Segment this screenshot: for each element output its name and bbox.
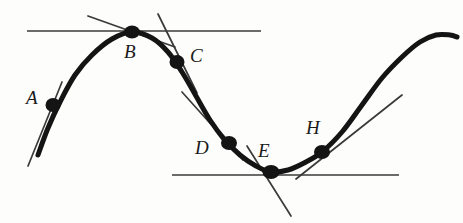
point-label-e: E	[258, 141, 270, 160]
point-dot-d	[221, 136, 237, 150]
tangent-lines-group	[28, 14, 402, 216]
point-label-a: A	[26, 88, 38, 107]
marked-points-group	[46, 26, 331, 180]
point-dot-c	[170, 55, 185, 69]
point-dot-e	[263, 165, 280, 179]
point-label-b: B	[124, 42, 136, 61]
point-label-c: C	[190, 46, 203, 65]
point-dot-b	[124, 26, 140, 39]
point-dot-h	[314, 145, 330, 159]
figure-canvas: A B C D E H	[0, 0, 463, 223]
curve-diagram-svg	[0, 0, 463, 223]
point-label-d: D	[195, 138, 209, 157]
point-label-h: H	[306, 118, 320, 137]
reference-lines-group	[27, 31, 399, 175]
point-dot-a	[46, 98, 61, 112]
